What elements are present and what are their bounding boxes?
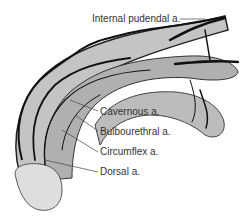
label-circumflex-artery: Circumflex a. — [100, 146, 158, 158]
label-cavernous-artery: Cavernous a. — [100, 106, 159, 118]
label-dorsal-artery: Dorsal a. — [100, 166, 140, 178]
label-internal-pudendal-artery: Internal pudendal a. — [92, 13, 180, 25]
label-bulbourethral-artery: Bulbourethral a. — [100, 126, 171, 138]
glans — [15, 164, 62, 211]
